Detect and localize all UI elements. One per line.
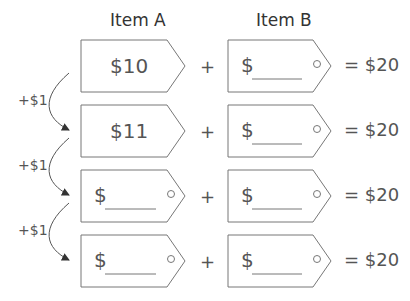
tag-a-2-price: $11	[110, 119, 148, 143]
tag-b-2-price-input[interactable]: $	[241, 118, 254, 142]
tag-a-1-price: $10	[110, 54, 148, 78]
tag-b-4-price-input[interactable]: $	[241, 248, 254, 272]
tag-hole-icon	[168, 256, 175, 263]
tag-a-3-price-input[interactable]: $	[94, 183, 107, 207]
curved-arrow-icon	[49, 138, 69, 195]
tag-hole-icon	[314, 191, 321, 198]
total-equals: = $20	[344, 54, 399, 75]
tag-hole-icon	[314, 256, 321, 263]
plus-sign: +	[200, 121, 215, 142]
tag-hole-icon	[314, 61, 321, 68]
tag-b-3-price-input[interactable]: $	[241, 183, 254, 207]
total-equals: = $20	[344, 119, 399, 140]
tag-hole-icon	[168, 191, 175, 198]
arrow-label: +$1	[18, 222, 48, 238]
tag-hole-icon	[314, 126, 321, 133]
total-equals: = $20	[344, 249, 399, 270]
arrow-label: +$1	[18, 92, 48, 108]
arrow-label: +$1	[18, 157, 48, 173]
total-equals: = $20	[344, 184, 399, 205]
curved-arrow-icon	[49, 73, 69, 130]
curved-arrow-icon	[49, 203, 69, 260]
tag-b-1-price-input[interactable]: $	[241, 53, 254, 77]
plus-sign: +	[200, 251, 215, 272]
tag-a-4-price-input[interactable]: $	[94, 248, 107, 272]
plus-sign: +	[200, 186, 215, 207]
plus-sign: +	[200, 56, 215, 77]
